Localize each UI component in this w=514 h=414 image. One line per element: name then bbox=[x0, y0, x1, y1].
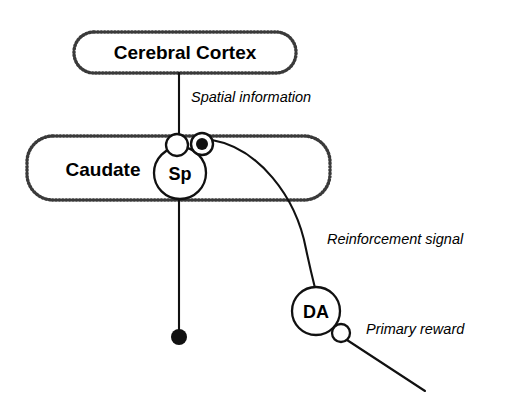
figure-canvas: Cerebral Cortex Caudate Sp DA Spatial in… bbox=[0, 0, 514, 414]
region-label-caudate: Caudate bbox=[66, 159, 141, 180]
node-label-sp-neuron: Sp bbox=[168, 164, 191, 184]
terminal-group bbox=[171, 329, 187, 345]
terminal-sp-axon-dot-icon bbox=[171, 329, 187, 345]
connection-primary-reward-input bbox=[347, 340, 425, 391]
synapse-da-to-sp-core-icon bbox=[196, 138, 208, 150]
edge-label-primary-reward: Primary reward bbox=[366, 321, 465, 337]
node-label-da-neuron: DA bbox=[303, 302, 329, 322]
region-label-cerebral-cortex: Cerebral Cortex bbox=[114, 42, 257, 63]
edge-label-reinforcement-signal: Reinforcement signal bbox=[327, 231, 464, 247]
synapse-primary-reward-icon bbox=[332, 324, 350, 342]
edge-label-spatial-information: Spatial information bbox=[191, 89, 311, 105]
synapse-cortex-to-sp-icon bbox=[166, 134, 188, 156]
neural-circuit-diagram: Cerebral Cortex Caudate Sp DA Spatial in… bbox=[0, 0, 514, 414]
